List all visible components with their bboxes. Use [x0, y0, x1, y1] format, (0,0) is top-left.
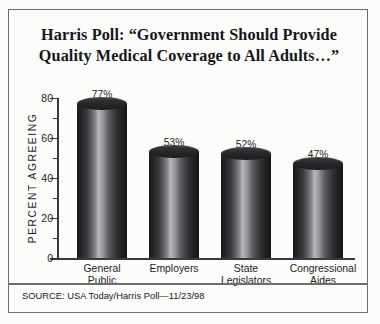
category-label-line-1: General	[84, 263, 121, 274]
plot-area: 80 60 40 20 0 77% 53% 52%	[57, 98, 355, 258]
bar-body-employers	[149, 152, 199, 258]
y-tick-minor-50	[53, 158, 57, 159]
category-label-line-2: Public	[88, 275, 116, 286]
source-divider	[8, 283, 368, 285]
y-tick-label-60: 60	[13, 133, 53, 143]
bar-cap-employers	[149, 145, 199, 158]
bar-cap-congressional-aides	[293, 157, 343, 170]
bar-congressional-aides[interactable]: 47%	[293, 164, 343, 258]
chart-title: Harris Poll: “Government Should Provide …	[9, 25, 369, 67]
y-tick-minor-70	[53, 118, 57, 119]
y-tick-label-20: 20	[13, 213, 53, 223]
bar-employers[interactable]: 53%	[149, 152, 199, 258]
y-tick-minor-10	[53, 238, 57, 239]
y-tick-label-0: 0	[13, 253, 53, 263]
chart-frame: Harris Poll: “Government Should Provide …	[8, 9, 368, 313]
category-label-line-1: Congressional	[290, 263, 356, 274]
chart-title-line-2: Quality Medical Coverage to All Adults…”	[9, 46, 369, 67]
category-label-line-1: Employers	[149, 263, 198, 274]
bar-body-general-public	[77, 104, 127, 258]
category-label-line-1: State	[234, 263, 258, 274]
bar-body-state-legislators	[221, 154, 271, 258]
y-tick-label-80: 80	[13, 93, 53, 103]
bar-body-congressional-aides	[293, 164, 343, 258]
x-axis-line	[50, 258, 355, 260]
chart-title-line-1: Harris Poll: “Government Should Provide	[9, 25, 369, 46]
bar-general-public[interactable]: 77%	[77, 104, 127, 258]
category-label-line-2: Aides	[310, 275, 336, 286]
bar-state-legislators[interactable]: 52%	[221, 154, 271, 258]
y-tick-minor-30	[53, 198, 57, 199]
bar-cap-general-public	[77, 97, 127, 110]
category-label-line-2: Legislators	[221, 275, 271, 286]
source-note: SOURCE: USA Today/Harris Poll—11/23/98	[22, 290, 205, 301]
bar-cap-state-legislators	[221, 147, 271, 160]
category-label-employers: Employers	[134, 263, 214, 275]
y-tick-label-40: 40	[13, 173, 53, 183]
chart-figure: Harris Poll: “Government Should Provide …	[0, 0, 380, 324]
y-axis-line	[57, 98, 59, 258]
